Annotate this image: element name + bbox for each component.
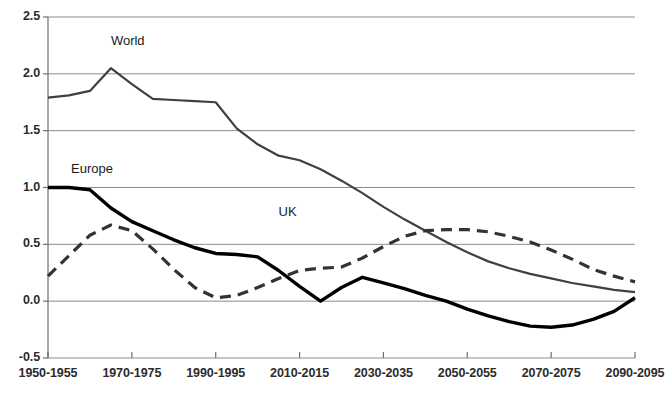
y-axis-tick-label: -0.5 (0, 350, 40, 364)
y-axis-tick-label: 1.5 (0, 123, 40, 137)
y-axis-tick-label: 1.0 (0, 180, 40, 194)
series-label-europe: Europe (71, 161, 113, 176)
y-axis-tick-label: 2.0 (0, 66, 40, 80)
series-label-uk: UK (279, 204, 297, 219)
y-axis-tick-label: 0.0 (0, 293, 40, 307)
y-axis-tick-label: 2.5 (0, 9, 40, 23)
y-axis-tick-label: 0.5 (0, 236, 40, 250)
series-label-world: World (111, 33, 145, 48)
x-axis-tick-label: 2090-2095 (580, 366, 669, 380)
series-line-world (48, 68, 635, 292)
series-line-europe (48, 188, 635, 328)
